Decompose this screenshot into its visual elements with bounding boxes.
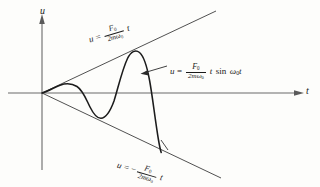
leader-line [145,66,167,73]
t-axis-arrowhead [294,90,304,96]
lower-label-leader [161,140,168,150]
figure-canvas [0,0,320,187]
resonance-figure: u t u = F0 2mω0 t u = − F0 [0,0,320,187]
curve-sin: sin [216,67,227,76]
lower-lhs: u [116,161,123,171]
curve-denominator: 2mω0 [186,73,206,81]
curve-label-leader [141,66,168,76]
upper-envelope-line [42,11,216,93]
curve-final-t: t [239,67,242,76]
curve-equation-label: u = F0 2mω0 t sin ω0 t [170,61,242,80]
curve-lhs: u [170,67,175,76]
curve-fraction: F0 2mω0 [186,63,206,80]
curve-equals: = [177,67,182,76]
t-axis-label: t [306,86,309,96]
leader-arrowhead [141,70,149,75]
curve-equation: u = F0 2mω0 t sin ω0 t [170,63,242,80]
curve-numerator: F0 [190,63,201,72]
curve-omega: ω0 [230,67,239,76]
curve-trailing-t: t [210,67,213,76]
u-axis-label: u [40,6,45,16]
lower-equals: = [123,163,130,173]
upper-equals: = [94,32,101,42]
t-axis [8,90,304,96]
